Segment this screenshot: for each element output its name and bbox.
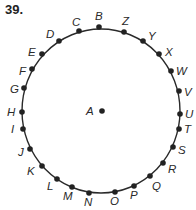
point-g-label: G xyxy=(10,83,19,95)
point-s-dot xyxy=(170,144,176,150)
point-f-dot xyxy=(29,66,35,72)
center-point-a-label: A xyxy=(85,105,94,117)
point-p-label: P xyxy=(130,189,138,201)
point-u-label: U xyxy=(185,108,194,120)
point-z-label: Z xyxy=(121,15,130,27)
point-t-dot xyxy=(176,126,182,132)
point-y-dot xyxy=(140,38,146,44)
point-p-dot xyxy=(131,183,137,189)
point-d-label: D xyxy=(46,28,54,40)
point-j-label: J xyxy=(17,146,24,158)
point-l-label: L xyxy=(47,180,53,192)
point-b-label: B xyxy=(95,10,103,22)
point-r-dot xyxy=(160,160,166,166)
point-v-dot xyxy=(176,88,182,94)
point-v-label: V xyxy=(184,86,193,98)
point-x-label: X xyxy=(164,46,174,58)
point-h-dot xyxy=(19,109,25,115)
point-j-dot xyxy=(27,146,33,152)
point-k-label: K xyxy=(27,165,36,177)
point-z-dot xyxy=(121,29,127,35)
point-b-dot xyxy=(96,24,102,30)
point-d-dot xyxy=(56,38,62,44)
point-i-dot xyxy=(20,126,26,132)
point-t-label: T xyxy=(184,123,192,135)
point-s-label: S xyxy=(178,144,186,156)
point-o-dot xyxy=(112,189,118,195)
point-n-dot xyxy=(86,190,92,196)
point-l-dot xyxy=(54,176,60,182)
point-u-dot xyxy=(177,111,183,117)
point-m-dot xyxy=(69,184,75,190)
point-r-label: R xyxy=(168,163,176,175)
point-w-dot xyxy=(168,68,174,74)
point-y-label: Y xyxy=(148,30,157,42)
center-point-a-dot xyxy=(99,108,105,114)
point-k-dot xyxy=(39,163,45,169)
point-f-label: F xyxy=(19,65,27,77)
point-o-label: O xyxy=(110,195,119,207)
circle-diagram: BCDEFGHIJKLMNOPQRSTUVWXYZA xyxy=(0,0,196,210)
point-h-label: H xyxy=(7,106,16,118)
point-c-label: C xyxy=(72,16,81,28)
point-w-label: W xyxy=(176,65,188,77)
point-n-label: N xyxy=(84,196,93,208)
point-e-dot xyxy=(39,51,45,57)
point-m-label: M xyxy=(63,190,73,202)
point-q-label: Q xyxy=(152,180,161,192)
point-c-dot xyxy=(76,28,82,34)
point-e-label: E xyxy=(28,46,36,58)
point-q-dot xyxy=(147,173,153,179)
point-x-dot xyxy=(156,51,162,57)
point-i-label: I xyxy=(11,123,15,135)
point-g-dot xyxy=(21,85,27,91)
